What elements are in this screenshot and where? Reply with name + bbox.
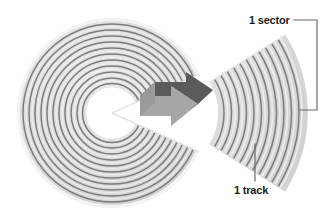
disk-diagram-svg — [0, 0, 331, 221]
sector-callout-label: 1 sector — [249, 14, 290, 26]
figure-container: 1 sector 1 track — [0, 0, 331, 221]
track-callout-label: 1 track — [234, 184, 268, 196]
